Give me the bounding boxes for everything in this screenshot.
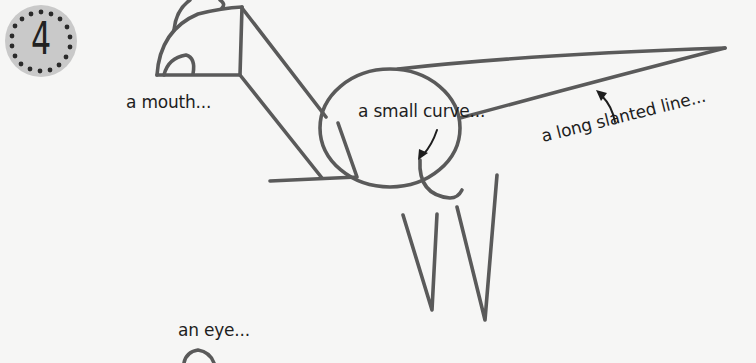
label-eye: an eye... [178,320,250,340]
dinosaur-sketch [0,0,756,363]
label-mouth: a mouth... [126,92,211,112]
arrow-to-small-curve [418,130,437,160]
label-small-curve: a small curve... [358,101,485,121]
neck-outline [240,8,326,178]
drawing-instruction-page: 4 [0,0,756,363]
head-outline [157,0,242,75]
eye-outline [184,350,214,363]
